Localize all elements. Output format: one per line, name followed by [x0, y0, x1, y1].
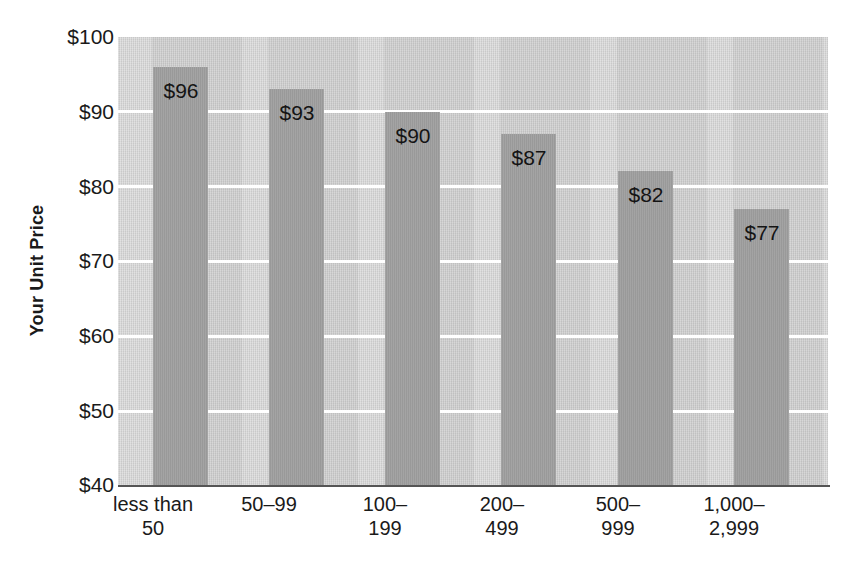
x-tick-label-3-line1: 100– [363, 493, 408, 515]
x-tick-label-1-line1: less than [113, 493, 193, 515]
x-axis-line [118, 485, 830, 487]
bar-value-label-2: $93 [262, 101, 332, 125]
y-tick-label-100: $100 [28, 25, 114, 49]
bar-less-than-50[interactable] [153, 67, 208, 485]
bar-50-99[interactable] [269, 89, 324, 485]
x-tick-label-5-line1: 500– [596, 493, 641, 515]
bar-value-label-6: $77 [727, 221, 797, 245]
bar-100-199[interactable] [385, 112, 440, 485]
y-tick-label-50: $50 [28, 399, 114, 423]
gridline-80 [118, 185, 828, 188]
gridline-70 [118, 260, 828, 263]
y-tick-label-60: $60 [28, 324, 114, 348]
gridline-50 [118, 410, 828, 413]
x-tick-label-1-line2: 50 [78, 516, 228, 540]
gridline-90 [118, 110, 828, 113]
y-tick-label-90: $90 [28, 100, 114, 124]
gridline-60 [118, 335, 828, 338]
x-tick-label-6: 1,000– 2,999 [659, 492, 809, 541]
bar-200-499[interactable] [501, 134, 556, 485]
x-tick-label-6-line2: 2,999 [659, 516, 809, 540]
bar-1000-2999[interactable] [734, 209, 789, 485]
x-tick-label-2-line1: 50–99 [241, 493, 297, 515]
y-tick-label-70: $70 [28, 249, 114, 273]
bar-500-999[interactable] [618, 171, 673, 485]
y-tick-label-80: $80 [28, 175, 114, 199]
bar-value-label-3: $90 [378, 124, 448, 148]
x-tick-label-4-line1: 200– [480, 493, 525, 515]
bar-chart-figure: Your Unit Price $100 $90 $80 $70 $60 $50… [0, 0, 858, 571]
x-tick-label-6-line1: 1,000– [703, 493, 764, 515]
y-axis-ticks: $100 $90 $80 $70 $60 $50 $40 [24, 0, 114, 571]
bar-value-label-1: $96 [146, 79, 216, 103]
bar-value-label-5: $82 [611, 183, 681, 207]
plot-area: $96 $93 $90 $87 $82 $77 [118, 37, 828, 485]
bar-value-label-4: $87 [494, 146, 564, 170]
